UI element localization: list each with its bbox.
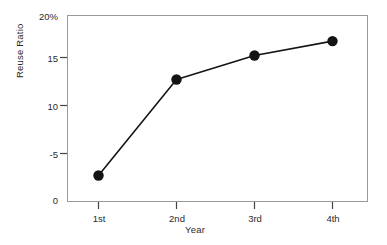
y-tick-label-5: -5 [24, 149, 58, 160]
x-axis-title: Year [185, 224, 205, 235]
x-tick-label-2nd: 2nd [157, 213, 197, 224]
y-tick-label-15: 15 [24, 53, 58, 64]
data-point-3rd [249, 50, 259, 60]
y-axis-ticks [60, 58, 67, 154]
data-point-4th [327, 36, 337, 46]
y-tick-label-0: 0 [24, 195, 58, 206]
x-axis-ticks [99, 202, 333, 209]
x-tick-label-4th: 4th [313, 213, 353, 224]
data-point-1st [93, 170, 103, 180]
y-tick-label-10: 10 [24, 101, 58, 112]
data-point-2nd [171, 74, 181, 84]
x-tick-label-3rd: 3rd [235, 213, 275, 224]
y-axis-title: Reuse Ratio [14, 24, 25, 78]
x-tick-label-1st: 1st [79, 213, 119, 224]
chart-container: 20% 15 10 -5 0 1st 2nd 3rd 4th Reuse Rat… [0, 0, 387, 245]
chart-plot-area [0, 0, 387, 245]
y-tick-label-20: 20% [24, 11, 58, 22]
